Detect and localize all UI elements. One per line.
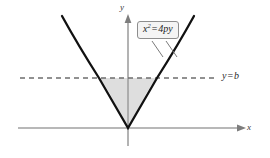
dashed-line-label-rhs: b — [234, 70, 239, 81]
x-axis-label: x — [247, 123, 251, 132]
dashed-line-label-operator: = — [226, 70, 234, 81]
equation-callout-box: x2=4py — [137, 21, 179, 39]
shaded-region — [0, 78, 270, 138]
dashed-line-label: y=b — [222, 71, 239, 81]
y-axis-label: y — [120, 3, 124, 12]
callout-leader-line — [152, 41, 177, 57]
callout-equation-right: 4py — [158, 23, 172, 34]
x-axis — [18, 125, 246, 132]
parabola-figure: x2=4py y x y=b — [0, 0, 270, 158]
